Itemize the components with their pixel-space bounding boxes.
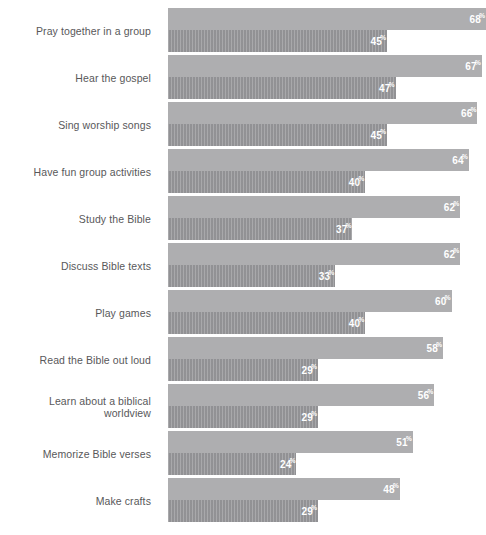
percent-sign: % [479,12,485,19]
bar-secondary: 47% [168,77,396,99]
percent-sign: % [311,363,317,370]
bar-primary: 67% [168,55,482,77]
bar-group: 58%29% [168,336,474,383]
percent-sign: % [380,34,386,41]
chart-row: Make crafts48%29% [0,477,474,524]
chart-row: Read the Bible out loud58%29% [0,336,474,383]
percent-sign: % [453,200,459,207]
bar-secondary: 40% [168,312,365,334]
bar-group: 48%29% [168,477,474,524]
bar-group: 66%45% [168,101,474,148]
bar-primary: 56% [168,384,434,406]
bar-primary: 62% [168,243,460,265]
bar-secondary: 29% [168,500,318,522]
category-label: Study the Bible [0,195,157,242]
category-label: Pray together in a group [0,7,157,54]
percent-sign: % [471,106,477,113]
chart-row: Learn about a biblical worldview56%29% [0,383,474,430]
percent-sign: % [346,222,352,229]
bar-secondary: 24% [168,453,296,475]
category-label: Make crafts [0,477,157,524]
bar-group: 56%29% [168,383,474,430]
bar-primary: 64% [168,149,469,171]
percent-sign: % [311,504,317,511]
chart-row: Hear the gospel67%47% [0,54,474,101]
category-label: Hear the gospel [0,54,157,101]
chart-row: Discuss Bible texts62%33% [0,242,474,289]
percent-sign: % [328,269,334,276]
percent-sign: % [406,435,412,442]
bar-primary: 51% [168,431,413,453]
percent-sign: % [359,316,365,323]
percent-sign: % [389,81,395,88]
percent-sign: % [359,175,365,182]
chart-row: Study the Bible62%37% [0,195,474,242]
bar-primary: 62% [168,196,460,218]
percent-sign: % [393,482,399,489]
category-label: Have fun group activities [0,148,157,195]
bar-primary: 48% [168,478,400,500]
category-label: Discuss Bible texts [0,242,157,289]
bar-secondary: 33% [168,265,335,287]
percent-sign: % [475,59,481,66]
category-label: Read the Bible out loud [0,336,157,383]
percent-sign: % [453,247,459,254]
bar-group: 64%40% [168,148,474,195]
chart-row: Sing worship songs66%45% [0,101,474,148]
bar-primary: 58% [168,337,443,359]
category-label: Play games [0,289,157,336]
percent-sign: % [428,388,434,395]
category-label: Learn about a biblical worldview [0,383,157,430]
category-label: Sing worship songs [0,101,157,148]
bar-group: 68%45% [168,7,474,54]
percent-sign: % [436,341,442,348]
bar-group: 67%47% [168,54,474,101]
percent-sign: % [290,457,296,464]
bar-secondary: 45% [168,30,387,52]
bar-group: 60%40% [168,289,474,336]
category-label: Memorize Bible verses [0,430,157,477]
bar-secondary: 37% [168,218,352,240]
percent-sign: % [311,410,317,417]
bar-primary: 68% [168,8,486,30]
chart-row: Play games60%40% [0,289,474,336]
percent-sign: % [445,294,451,301]
bar-primary: 60% [168,290,452,312]
bar-group: 51%24% [168,430,474,477]
percent-sign: % [462,153,468,160]
bar-group: 62%37% [168,195,474,242]
chart-row: Have fun group activities64%40% [0,148,474,195]
chart-row: Pray together in a group68%45% [0,7,474,54]
bar-primary: 66% [168,102,477,124]
bar-secondary: 40% [168,171,365,193]
chart-row: Memorize Bible verses51%24% [0,430,474,477]
bar-secondary: 45% [168,124,387,146]
bar-secondary: 29% [168,359,318,381]
percent-sign: % [380,128,386,135]
bar-group: 62%33% [168,242,474,289]
bar-secondary: 29% [168,406,318,428]
